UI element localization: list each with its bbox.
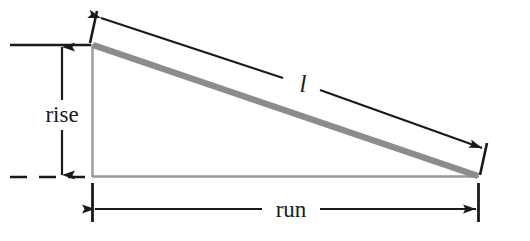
length-label: l — [300, 70, 307, 97]
slope-diagram-figure: rise run l — [0, 0, 530, 241]
triangle-shape — [92, 44, 479, 177]
length-extension-tick-start — [90, 11, 97, 43]
length-arrow-end — [320, 90, 482, 148]
triangle-hypotenuse — [93, 45, 478, 176]
run-dimension: run — [93, 183, 479, 222]
slope-diagram-canvas: rise run l — [0, 0, 530, 241]
rise-dimension: rise — [10, 45, 91, 177]
length-dimension: l — [90, 11, 487, 175]
rise-label: rise — [45, 102, 78, 127]
length-arrow-start — [101, 18, 283, 78]
run-label: run — [276, 197, 307, 222]
